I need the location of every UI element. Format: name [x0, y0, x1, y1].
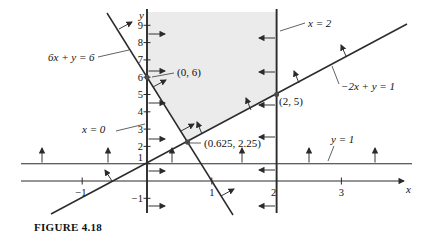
halfplane-arrow-6xy: [119, 22, 132, 29]
halfplane-arrow-neg2xy: [341, 45, 346, 56]
feasible-region: [147, 12, 277, 142]
y-tick-5: 5: [138, 89, 143, 100]
leader-neg2xy: [332, 66, 339, 84]
x-tick-1: 1: [209, 187, 214, 198]
y-tick-6: 6: [138, 72, 143, 83]
y-tick-1: 1: [138, 152, 143, 163]
x-tick-labels: −1 1 2 3: [75, 187, 344, 198]
x-tick-2: 2: [271, 187, 276, 198]
x-axis-letter: x: [405, 183, 411, 195]
label-point-0625-225: (0.625, 2.25): [204, 137, 261, 150]
label-neg2x-plus-y-equals-1: −2x + y = 1: [341, 80, 395, 92]
y-tick-9: 9: [138, 20, 143, 31]
y-tick-8: 8: [138, 37, 143, 48]
vertex-dot-0-6: [145, 75, 150, 80]
figure-caption: FIGURE 4.18: [34, 221, 102, 233]
y-tick-neg1: −1: [132, 193, 143, 204]
y-axis-letter: y: [138, 9, 144, 21]
label-point-2-5: (2, 5): [279, 95, 303, 108]
x-tick-3: 3: [339, 187, 344, 198]
y-tick-2: 2: [138, 141, 143, 152]
vertex-dot-0625-225: [185, 140, 190, 145]
halfplane-arrow-neg2xy: [105, 170, 112, 181]
halfplane-arrow-6xy: [221, 189, 234, 196]
y-tick-4: 4: [138, 106, 144, 117]
leader-x2: [280, 23, 305, 31]
y-tick-labels: 9 8 7 6 5 4 3 2 1 −1: [132, 20, 144, 204]
figure-4-18-plot: 9 8 7 6 5 4 3 2 1 −1 −1 1 2 3 y x: [0, 0, 424, 235]
label-y-equals-1: y = 1: [330, 133, 354, 145]
label-6x-plus-y-equals-6: 6x + y = 6: [48, 51, 95, 63]
leader-y1: [328, 146, 334, 161]
halfplane-arrow-neg2xy: [294, 71, 299, 83]
label-x-equals-0: x = 0: [81, 123, 106, 135]
leader-6xy: [98, 50, 129, 57]
label-x-equals-2: x = 2: [307, 17, 332, 29]
label-point-0-6: (0, 6): [177, 66, 201, 79]
